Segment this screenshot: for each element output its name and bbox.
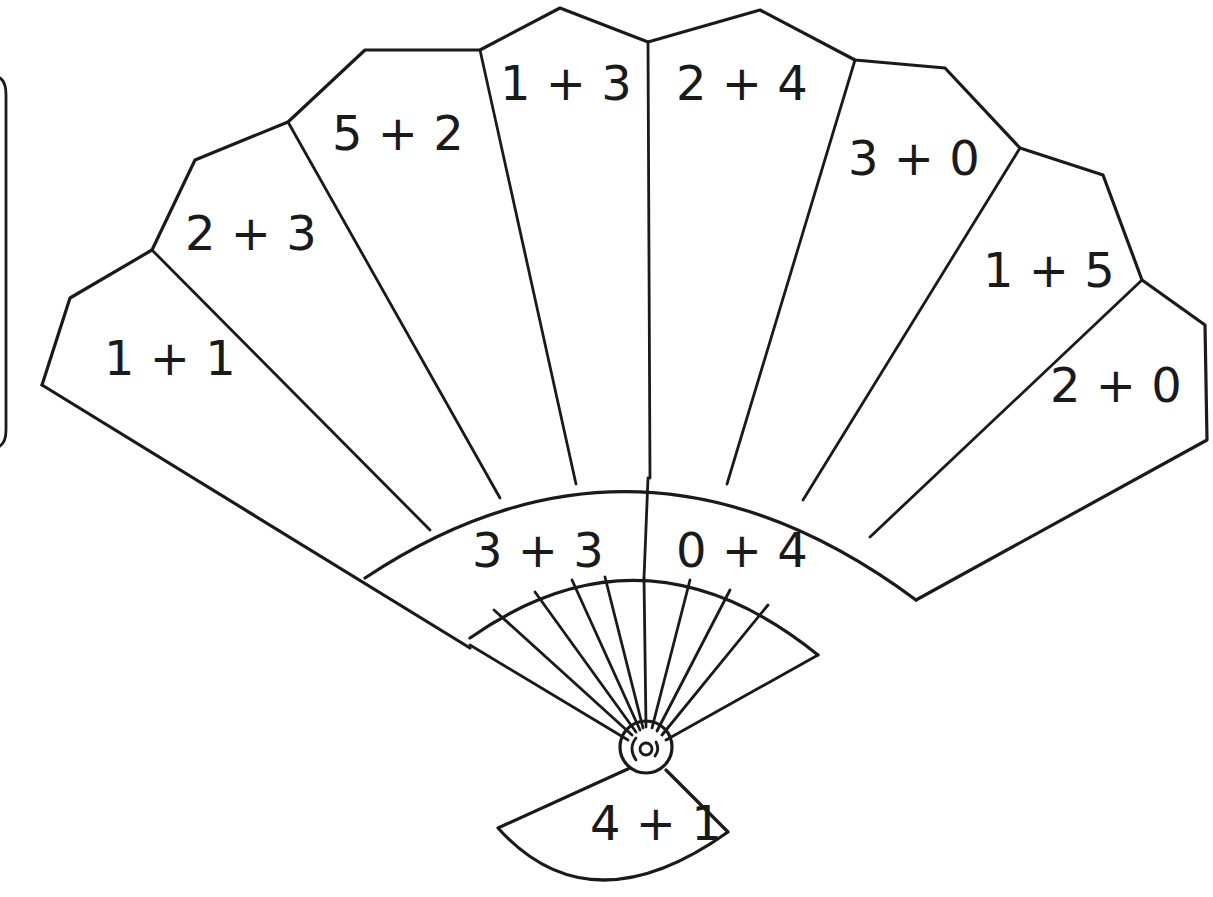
left-box-border [0, 78, 6, 446]
panel-2-expr: 2 + 3 [185, 205, 317, 261]
rib-3 [480, 50, 576, 484]
fan-panel-labels: 1 + 1 2 + 3 5 + 2 1 + 3 2 + 4 3 + 0 1 + … [104, 55, 1182, 413]
panel-1-expr: 1 + 1 [104, 330, 236, 386]
inner-rib-5 [605, 577, 643, 728]
rib-6 [803, 148, 1020, 500]
pivot-center [640, 743, 652, 755]
rib-5 [727, 60, 855, 484]
handle-expr: 4 + 1 [590, 795, 722, 851]
pivot-swirl-right [655, 742, 658, 756]
pivot-rivet-icon [620, 721, 672, 773]
inner-rib-6 [644, 578, 646, 727]
pivot-swirl-left [632, 738, 636, 760]
panel-3-expr: 5 + 2 [332, 105, 464, 161]
band-outer-arc [365, 492, 916, 600]
rib-4 [648, 42, 650, 478]
panel-6-expr: 3 + 0 [848, 130, 980, 186]
panel-5-expr: 2 + 4 [676, 55, 808, 111]
rib-2 [288, 122, 500, 498]
panel-4-expr: 1 + 3 [500, 55, 632, 111]
band-left-expr: 3 + 3 [472, 522, 604, 578]
band-labels: 3 + 3 0 + 4 [472, 522, 808, 578]
fan-worksheet: 1 + 1 2 + 3 5 + 2 1 + 3 2 + 4 3 + 0 1 + … [0, 0, 1213, 897]
rib-1 [152, 250, 430, 530]
panel-8-expr: 2 + 0 [1050, 357, 1182, 413]
panel-7-expr: 1 + 5 [983, 242, 1115, 298]
band-right-expr: 0 + 4 [676, 522, 808, 578]
fan-left-edge [42, 385, 470, 648]
inner-rib-4 [572, 580, 640, 730]
